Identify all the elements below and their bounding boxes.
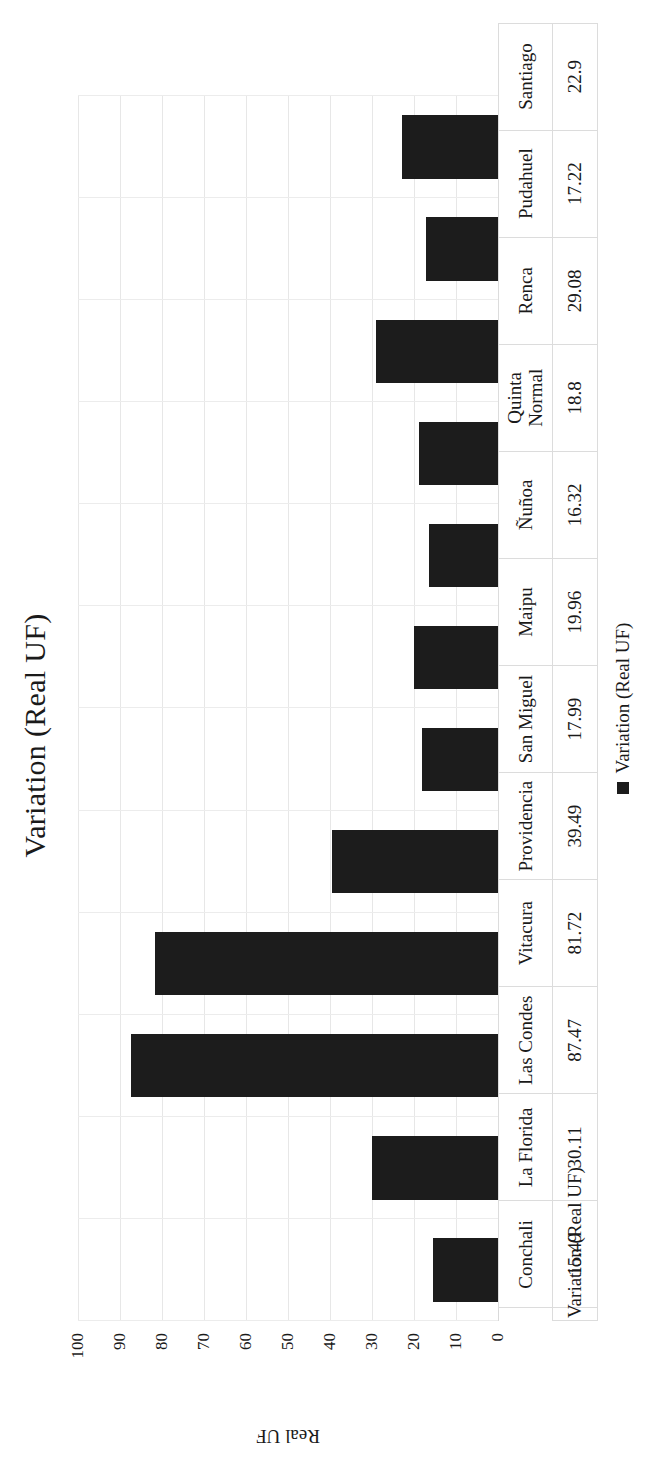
table-value-cell: 29.08 bbox=[552, 237, 597, 344]
table-category-cell: Providencia bbox=[499, 773, 553, 880]
table-category-cell: Las Condes bbox=[499, 987, 553, 1094]
bar[interactable] bbox=[419, 422, 498, 485]
y-axis-tick-label: 60 bbox=[236, 1333, 256, 1350]
bar-cell[interactable] bbox=[78, 709, 498, 811]
bar[interactable] bbox=[376, 320, 498, 383]
bar-cell[interactable] bbox=[78, 96, 498, 198]
bar-cell[interactable] bbox=[78, 198, 498, 300]
table-category-cell: Ñuñoa bbox=[499, 451, 553, 558]
bar-cell[interactable] bbox=[78, 504, 498, 606]
bar-cell[interactable] bbox=[78, 300, 498, 402]
table-corner-cell bbox=[499, 1308, 553, 1321]
table-row-values: Variation (Real UF) 15.4930.1187.4781.72… bbox=[552, 23, 597, 1320]
y-axis-tick-label: 90 bbox=[110, 1333, 130, 1350]
data-table: ConchaliLa FloridaLas CondesVitacuraProv… bbox=[498, 23, 598, 1321]
y-axis-title-text: Real UF bbox=[256, 1425, 320, 1447]
y-axis-tick-label: 30 bbox=[362, 1333, 382, 1350]
bar-cell[interactable] bbox=[78, 402, 498, 504]
table-category-cell: Santiago bbox=[499, 23, 553, 130]
table-value-cell: 19.96 bbox=[552, 558, 597, 665]
bar-cell[interactable] bbox=[78, 606, 498, 708]
table-category-cell: Vitacura bbox=[499, 880, 553, 987]
table-value-cell: 39.49 bbox=[552, 773, 597, 880]
table-row-header: Variation (Real UF) bbox=[552, 1308, 597, 1321]
table-row-categories: ConchaliLa FloridaLas CondesVitacuraProv… bbox=[499, 23, 553, 1320]
legend-label: Variation (Real UF) bbox=[612, 623, 634, 774]
y-axis-tick-label: 100 bbox=[68, 1333, 88, 1359]
y-axis-tick-label: 20 bbox=[404, 1333, 424, 1350]
chart-page: Variation (Real UF) Real UF 100908070605… bbox=[0, 0, 667, 1471]
y-axis-tick-label: 70 bbox=[194, 1333, 214, 1350]
bar[interactable] bbox=[155, 932, 498, 995]
table-value-cell: 17.99 bbox=[552, 666, 597, 773]
table-value-cell: 17.22 bbox=[552, 130, 597, 237]
bar-series bbox=[78, 96, 498, 1321]
bar-cell[interactable] bbox=[78, 1015, 498, 1117]
bar-cell[interactable] bbox=[78, 913, 498, 1015]
square-marker-icon bbox=[617, 782, 629, 794]
table-category-cell: San Miguel bbox=[499, 666, 553, 773]
table-value-cell: 18.8 bbox=[552, 344, 597, 451]
bar[interactable] bbox=[414, 626, 498, 689]
plot-area: 1009080706050403020100 bbox=[78, 96, 498, 1321]
y-axis-tick-label: 40 bbox=[320, 1333, 340, 1350]
table-category-cell: Renca bbox=[499, 237, 553, 344]
bar[interactable] bbox=[426, 218, 498, 281]
bar[interactable] bbox=[131, 1034, 498, 1097]
bar[interactable] bbox=[402, 115, 498, 178]
bar-cell[interactable] bbox=[78, 811, 498, 913]
y-axis-tick-label: 50 bbox=[278, 1333, 298, 1350]
bar[interactable] bbox=[422, 728, 498, 791]
bar[interactable] bbox=[433, 1238, 498, 1301]
table-category-cell: Maipu bbox=[499, 558, 553, 665]
bar[interactable] bbox=[429, 524, 498, 587]
table-value-cell: 22.9 bbox=[552, 23, 597, 130]
table-category-cell: Conchali bbox=[499, 1201, 553, 1308]
bar-cell[interactable] bbox=[78, 1219, 498, 1321]
y-axis-tick-label: 0 bbox=[488, 1333, 508, 1342]
bar[interactable] bbox=[372, 1136, 498, 1199]
y-axis-title: Real UF bbox=[78, 1423, 498, 1449]
y-axis-tick-label: 10 bbox=[446, 1333, 466, 1350]
table-category-cell: Pudahuel bbox=[499, 130, 553, 237]
table-value-cell: 87.47 bbox=[552, 987, 597, 1094]
table-category-cell: La Florida bbox=[499, 1094, 553, 1201]
table-category-cell: Quinta Normal bbox=[499, 344, 553, 451]
table-value-cell: 81.72 bbox=[552, 880, 597, 987]
chart-title: Variation (Real UF) bbox=[18, 0, 52, 1471]
y-axis-tick-label: 80 bbox=[152, 1333, 172, 1350]
bar[interactable] bbox=[332, 830, 498, 893]
rotated-chart-canvas: Variation (Real UF) Real UF 100908070605… bbox=[0, 0, 667, 1471]
table-value-cell: 16.32 bbox=[552, 451, 597, 558]
bar-cell[interactable] bbox=[78, 1117, 498, 1219]
chart-legend: Variation (Real UF) bbox=[612, 96, 634, 1321]
